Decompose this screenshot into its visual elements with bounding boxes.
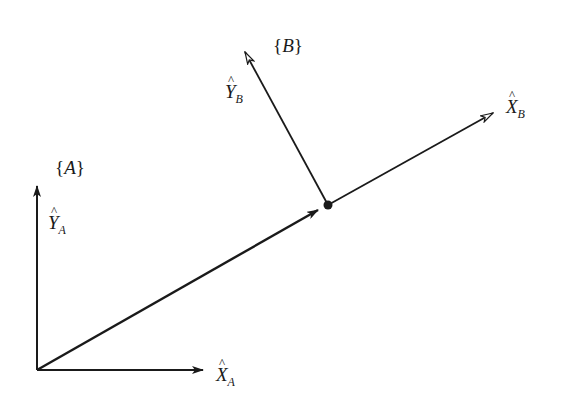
x-b-axis [328,113,493,205]
diagram-graphics [0,0,567,405]
y-b-label: YB [225,82,243,101]
frame-a-label: {A} [55,158,85,177]
y-b-axis [245,52,328,205]
frame-b-label: {B} [273,36,303,55]
y-a-label: YA [48,213,66,232]
x-b-label: XB [506,97,525,116]
frame-diagram: {A} YA XA {B} YB XB [0,0,567,405]
x-a-label: XA [216,365,235,384]
frame-b-origin [324,201,333,210]
position-vector [37,210,318,370]
